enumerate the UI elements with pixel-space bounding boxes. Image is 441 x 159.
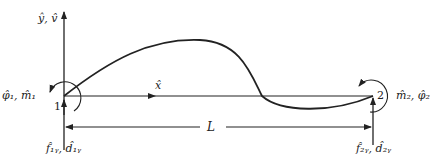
x-axis-label: x̂: [155, 79, 162, 92]
deflection-curve: [64, 40, 373, 109]
beam-element-diagram: ŷ, v̂ x̂ L 1 2 φ̂₁, m̂₁ m̂₂, φ̂₂ f̂₁ᵧ, d…: [0, 0, 441, 159]
length-label: L: [206, 120, 215, 134]
node1-moment-label: φ̂₁, m̂₁: [2, 89, 36, 102]
x-axis-arrow-icon: [148, 93, 156, 99]
node2-force-label: f̂₂ᵧ, d̂₂ᵧ: [355, 141, 392, 155]
node2-moment-label: m̂₂, φ̂₂: [396, 89, 430, 102]
diagram-svg: ŷ, v̂ x̂ L 1 2 φ̂₁, m̂₁ m̂₂, φ̂₂ f̂₁ᵧ, d…: [0, 0, 441, 159]
node2-label: 2: [377, 89, 384, 102]
node1-force-label: f̂₁ᵧ, d̂₁ᵧ: [45, 141, 82, 155]
node1-label: 1: [54, 100, 61, 113]
y-axis-label: ŷ, v̂: [37, 12, 58, 25]
